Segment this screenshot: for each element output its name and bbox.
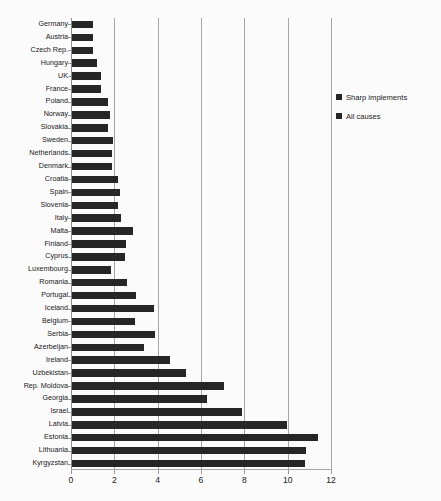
category-label: Croatia <box>0 175 68 183</box>
category-label: Portugal <box>0 291 68 299</box>
category-label: Israel <box>0 407 68 415</box>
bar-row <box>71 342 331 353</box>
bar <box>72 150 112 158</box>
category-tick <box>68 373 71 374</box>
bar <box>72 434 318 442</box>
bar <box>72 227 133 235</box>
category-tick <box>68 231 71 232</box>
bar <box>72 408 242 416</box>
bar-row <box>71 32 331 43</box>
legend-swatch-icon <box>336 94 342 100</box>
category-tick <box>68 205 71 206</box>
category-tick <box>68 425 71 426</box>
category-label: Norway <box>0 110 68 118</box>
category-label: Rep. Moldova <box>0 382 68 390</box>
legend-item[interactable]: Sharp implements <box>336 92 440 102</box>
bar-row <box>71 458 331 469</box>
bar-row <box>71 368 331 379</box>
plot-area <box>71 18 331 470</box>
legend: Sharp implementsAll causes <box>336 92 440 130</box>
category-tick <box>68 128 71 129</box>
figure-caption <box>14 492 434 500</box>
category-label: Czech Rep. <box>0 46 68 54</box>
bar-row <box>71 394 331 405</box>
bar-row <box>71 303 331 314</box>
category-tick <box>68 296 71 297</box>
category-tick <box>68 218 71 219</box>
bar <box>72 266 111 274</box>
category-label: UK <box>0 72 68 80</box>
bar <box>72 279 127 287</box>
category-label: Kyrgyzstan <box>0 459 68 467</box>
x-tick-label: 10 <box>276 475 300 485</box>
category-label: Italy <box>0 214 68 222</box>
bar <box>72 344 144 352</box>
bar <box>72 72 101 80</box>
category-tick <box>68 76 71 77</box>
bar <box>72 447 306 455</box>
category-label: Austria <box>0 33 68 41</box>
bar-row <box>71 355 331 366</box>
bar-row <box>71 381 331 392</box>
category-tick <box>68 257 71 258</box>
bar-row <box>71 239 331 250</box>
bar-chart: GermanyAustriaCzech Rep.HungaryUKFranceP… <box>0 0 441 501</box>
category-label: Sweden <box>0 136 68 144</box>
legend-label: Sharp implements <box>346 93 407 102</box>
bar-row <box>71 213 331 224</box>
category-tick <box>68 321 71 322</box>
bar <box>72 305 154 313</box>
bar-row <box>71 226 331 237</box>
bar-row <box>71 58 331 69</box>
bar-row <box>71 187 331 198</box>
bar <box>72 318 135 326</box>
category-label: Germany <box>0 20 68 28</box>
bar-row <box>71 200 331 211</box>
category-label: Estonia <box>0 433 68 441</box>
bar <box>72 240 126 248</box>
x-tick-mark <box>71 470 72 474</box>
bar-row <box>71 420 331 431</box>
bar <box>72 59 97 67</box>
category-axis-labels: GermanyAustriaCzech Rep.HungaryUKFranceP… <box>0 18 68 470</box>
category-label: Lithuania <box>0 446 68 454</box>
bar <box>72 331 155 339</box>
bar <box>72 47 93 55</box>
bar <box>72 253 125 261</box>
bar <box>72 98 108 106</box>
category-tick <box>68 24 71 25</box>
category-label: Uzbekistan <box>0 369 68 377</box>
gridline-12 <box>331 18 332 470</box>
category-tick <box>68 347 71 348</box>
category-label: Ireland <box>0 356 68 364</box>
category-tick <box>68 438 71 439</box>
bar-row <box>71 71 331 82</box>
category-tick <box>68 102 71 103</box>
bar <box>72 292 136 300</box>
bar <box>72 111 110 119</box>
category-label: Azerbeijan <box>0 343 68 351</box>
bar <box>72 34 93 42</box>
category-tick <box>68 283 71 284</box>
category-tick <box>68 192 71 193</box>
category-label: Slovakia <box>0 123 68 131</box>
category-label: Slovenia <box>0 201 68 209</box>
legend-item[interactable]: All causes <box>336 111 440 121</box>
category-label: Spain <box>0 188 68 196</box>
category-tick <box>68 360 71 361</box>
bar <box>72 382 224 390</box>
bar <box>72 202 118 210</box>
bar <box>72 460 305 468</box>
bar-row <box>71 97 331 108</box>
x-tick-label: 2 <box>102 475 126 485</box>
category-label: Serbia <box>0 330 68 338</box>
bar <box>72 137 113 145</box>
category-tick <box>68 167 71 168</box>
legend-swatch-icon <box>336 113 342 119</box>
bar <box>72 124 108 132</box>
bar <box>72 214 121 222</box>
category-tick <box>68 309 71 310</box>
category-label: Latvia <box>0 420 68 428</box>
bar <box>72 395 207 403</box>
bar <box>72 85 101 93</box>
